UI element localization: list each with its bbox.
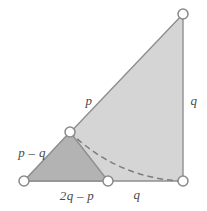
vertex-marker-middle-apex [65, 127, 75, 137]
vertex-marker-bottom-middle [103, 176, 113, 186]
label-small-triangle-left-p-minus-q: p – q [18, 146, 46, 159]
label-right-side-q: q [191, 94, 198, 107]
figure-canvas [0, 0, 207, 211]
vertex-marker-bottom-left [19, 176, 29, 186]
vertex-marker-bottom-right [178, 176, 188, 186]
geometry-figure: p q q p – q 2q – p [0, 0, 207, 211]
label-hypotenuse-p: p [86, 94, 93, 107]
label-small-triangle-base-2q-minus-p: 2q – p [60, 189, 94, 202]
vertex-marker-top-right [178, 9, 188, 19]
label-bottom-right-segment-q: q [134, 188, 141, 201]
